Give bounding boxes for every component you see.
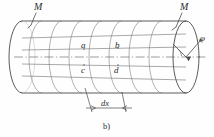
dx-extension-left [85, 88, 92, 112]
longitudinal-line-lower-outer [22, 76, 186, 80]
longitudinal-line-lower-inner [22, 64, 186, 67]
label-node-c: c [81, 66, 85, 75]
label-twist-angle: φ [200, 34, 205, 43]
moment-right-leader [176, 13, 182, 27]
dx-arrow-left [91, 106, 96, 108]
dx-arrow-right2 [123, 108, 128, 110]
moment-leaders [28, 13, 182, 30]
twist-angle-arrowhead [186, 57, 191, 62]
label-node-a: a [81, 41, 86, 50]
figure-caption: b) [103, 122, 110, 131]
label-element-width: dx [101, 99, 109, 108]
dx-arrow-left2 [91, 108, 96, 110]
torsion-shaft-figure: M M φ a b c d dx b) [0, 0, 214, 137]
label-node-d: d [114, 66, 119, 75]
label-moment-left: M [34, 2, 42, 12]
twist-angle-leader [186, 41, 200, 57]
node-markers [83, 47, 118, 65]
label-moment-right: M [180, 2, 188, 12]
figure-drawing [0, 0, 214, 137]
longitudinal-line-upper-inner [22, 47, 186, 50]
moment-right-tick [172, 27, 176, 30]
moment-left-leader [31, 13, 36, 25]
longitudinal-line-upper-outer [22, 34, 186, 38]
label-node-b: b [115, 41, 120, 50]
